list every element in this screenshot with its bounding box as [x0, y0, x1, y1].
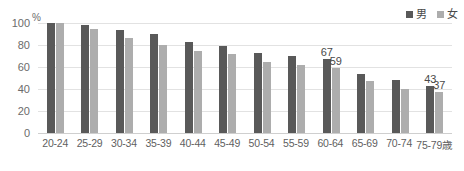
y-tick-label: 80 [0, 39, 30, 51]
y-axis-unit: % [32, 12, 41, 23]
chart-legend: 男 女 [406, 9, 458, 20]
x-tick-label: 20-24 [38, 137, 72, 152]
bar-value-label: 37 [433, 80, 445, 91]
bar-male[interactable] [185, 42, 193, 133]
bar-group: 6759 [314, 23, 349, 133]
legend-item-male: 男 [406, 9, 427, 20]
x-tick-label: 30-34 [107, 137, 141, 152]
bar-male[interactable] [392, 80, 400, 133]
bar-group [211, 23, 246, 133]
bar-female[interactable]: 59 [332, 68, 340, 133]
bar-male[interactable] [357, 74, 365, 133]
bar-female[interactable] [228, 54, 236, 133]
bar-female[interactable]: 37 [435, 92, 443, 133]
legend-swatch-male [406, 11, 413, 18]
bar-group: 4337 [418, 23, 453, 133]
bar-female[interactable] [401, 89, 409, 133]
legend-label-male: 男 [416, 9, 427, 20]
bar-group [107, 23, 142, 133]
bar-group [280, 23, 315, 133]
bar-male[interactable]: 43 [426, 86, 434, 133]
bar-female[interactable] [263, 62, 271, 134]
bar-male[interactable] [150, 34, 158, 133]
bar-groups: 67594337 [38, 23, 452, 133]
y-tick-label: 40 [0, 83, 30, 95]
legend-swatch-female [437, 11, 444, 18]
bar-male[interactable] [288, 56, 296, 133]
x-tick-label: 65-69 [348, 137, 382, 152]
y-axis: 100806040200 [0, 23, 34, 133]
bar-male[interactable] [219, 46, 227, 133]
x-tick-label: 50-54 [244, 137, 278, 152]
x-axis-labels: 20-2425-2930-3435-3940-4445-4950-5455-59… [38, 137, 452, 152]
bar-male[interactable]: 67 [323, 59, 331, 133]
bar-group [38, 23, 73, 133]
bar-male[interactable] [254, 53, 262, 133]
bar-group [383, 23, 418, 133]
bar-chart: 男 女 % 100806040200 67594337 20-2425-2930… [0, 0, 464, 171]
bar-male[interactable] [116, 30, 124, 133]
x-tick-label: 40-44 [176, 137, 210, 152]
y-tick-label: 20 [0, 105, 30, 117]
bar-female[interactable] [125, 38, 133, 133]
gridline [38, 133, 452, 134]
x-tick-label: 75-79歳 [416, 137, 452, 152]
bar-male[interactable] [81, 25, 89, 133]
bar-female[interactable] [159, 45, 167, 133]
bar-group [73, 23, 108, 133]
bar-female[interactable] [297, 65, 305, 133]
x-tick-label: 25-29 [72, 137, 106, 152]
x-tick-label: 35-39 [141, 137, 175, 152]
x-tick-label: 45-49 [210, 137, 244, 152]
legend-label-female: 女 [447, 9, 458, 20]
x-tick-label: 70-74 [382, 137, 416, 152]
plot-area: 67594337 [38, 23, 452, 133]
bar-group [176, 23, 211, 133]
bar-group [142, 23, 177, 133]
bar-female[interactable] [56, 23, 64, 133]
y-tick-label: 60 [0, 61, 30, 73]
bar-male[interactable] [47, 23, 55, 133]
bar-female[interactable] [194, 51, 202, 134]
legend-item-female: 女 [437, 9, 458, 20]
x-tick-label: 55-59 [279, 137, 313, 152]
x-tick-label: 60-64 [313, 137, 347, 152]
bar-value-label: 59 [330, 56, 342, 67]
bar-group [245, 23, 280, 133]
y-tick-label: 100 [0, 17, 30, 29]
bar-group [349, 23, 384, 133]
bar-female[interactable] [90, 29, 98, 134]
y-tick-label: 0 [0, 127, 30, 139]
bar-female[interactable] [366, 81, 374, 133]
